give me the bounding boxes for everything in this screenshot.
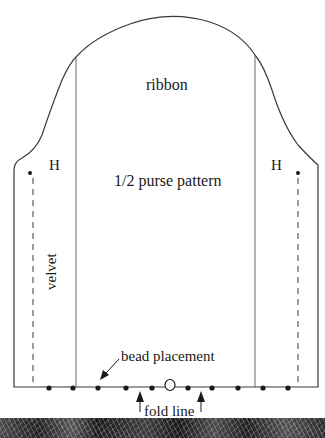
bead-dot [235,385,240,390]
bead-dot [185,385,190,390]
bead-placement-label: bead placement [121,349,215,364]
fold-line-arrow-right-head-icon [197,391,205,402]
pattern-outline [14,16,318,387]
bead-placement-arrow-shaft [106,359,119,373]
fabric-texture-strip [0,418,325,438]
bead-dot [70,385,75,390]
bead-dot [209,385,214,390]
bead-dot [260,385,265,390]
fold-line-label: fold line [144,404,194,419]
pattern-title: 1/2 purse pattern [114,173,222,189]
bead-dot [123,385,128,390]
velvet-label: velvet [44,253,59,290]
bead-dot [285,385,290,390]
bead-dot [149,385,154,390]
hinge-label-right: H [271,158,282,173]
ribbon-label: ribbon [146,77,188,93]
hinge-dot-left [28,171,32,175]
hinge-dot-right [296,171,300,175]
center-marker-circle [165,380,175,391]
bead-dot [46,385,51,390]
hinge-label-left: H [49,158,60,173]
purse-pattern-diagram [0,0,325,438]
bead-dot [95,385,100,390]
fold-line-arrow-left-head-icon [136,391,144,402]
